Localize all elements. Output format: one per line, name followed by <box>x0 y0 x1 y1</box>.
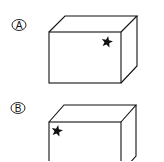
option-a[interactable]: A <box>12 16 137 83</box>
cube-top-face <box>49 105 136 122</box>
option-b[interactable]: B <box>11 103 136 162</box>
cube-front-face <box>49 122 121 161</box>
star-icon <box>52 125 63 136</box>
cube-top-face <box>49 16 137 32</box>
star-icon <box>102 36 113 47</box>
option-b-label: B <box>15 103 22 114</box>
option-b-cube <box>49 105 136 161</box>
cube-side-face <box>121 16 137 83</box>
option-a-label: A <box>16 20 23 31</box>
option-a-cube <box>49 16 137 83</box>
cube-front-face <box>49 32 121 83</box>
cube-options-diagram: A B <box>0 0 164 161</box>
